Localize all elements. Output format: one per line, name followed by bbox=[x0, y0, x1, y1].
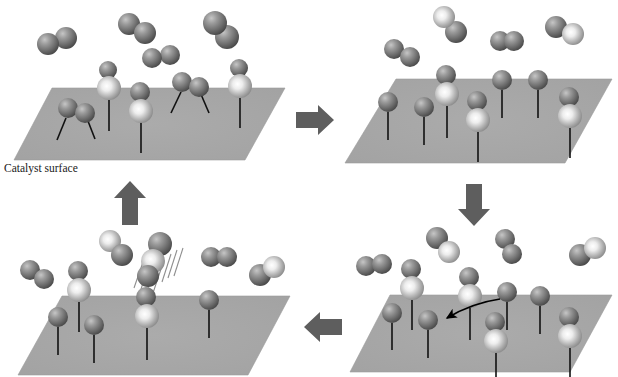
adsorbed-atom bbox=[528, 70, 548, 90]
h2-gas bbox=[545, 16, 584, 45]
h2-gas bbox=[99, 230, 133, 266]
adsorbed-atom bbox=[492, 70, 512, 90]
h2-gas bbox=[142, 45, 180, 68]
h2-gas bbox=[203, 11, 239, 49]
h2-gas bbox=[569, 237, 606, 266]
adsorbed-atom bbox=[382, 303, 402, 323]
h2-gas bbox=[37, 27, 77, 55]
flow-arrow-down-right bbox=[458, 184, 490, 226]
catalyst-surface-plane bbox=[14, 88, 285, 160]
flow-arrow-right-top bbox=[296, 105, 334, 135]
adsorbed-stack bbox=[228, 59, 252, 98]
flow-arrow-left-bottom bbox=[304, 312, 342, 342]
gas-phase-group-3 bbox=[356, 227, 606, 276]
gas-phase-group-4 bbox=[20, 230, 285, 296]
panel-4-desorption bbox=[18, 230, 290, 375]
adsorbed-atom bbox=[48, 307, 68, 327]
adsorbed-stack bbox=[458, 267, 482, 308]
gas-phase-group-1 bbox=[37, 11, 239, 68]
h2-gas bbox=[495, 229, 522, 264]
h2-desorbing bbox=[137, 232, 172, 287]
panel-2-dissociation bbox=[345, 6, 612, 163]
adsorbed-atom bbox=[530, 286, 550, 306]
h2-gas bbox=[490, 31, 524, 51]
h2-gas bbox=[201, 247, 237, 267]
adsorbed-atom bbox=[418, 310, 438, 330]
catalysis-cycle-diagram: Catalyst surface bbox=[0, 0, 618, 377]
h2-gas bbox=[433, 6, 467, 43]
adsorbed-atom bbox=[84, 315, 104, 335]
adsorbed-stack bbox=[135, 287, 159, 328]
adsorbed-atom bbox=[378, 92, 398, 112]
panel-3-migration bbox=[350, 227, 612, 377]
figure-canvas: Catalyst surface bbox=[0, 0, 618, 377]
adsorbed-stack bbox=[435, 65, 459, 106]
panel-1-adsorption: Catalyst surface bbox=[4, 11, 285, 175]
h2-gas bbox=[249, 256, 285, 286]
adsorbed-stack bbox=[67, 261, 91, 302]
scan-artifact-text bbox=[25, 2, 26, 7]
gas-phase-group-2 bbox=[384, 6, 584, 67]
adsorbed-atom bbox=[414, 97, 434, 117]
h2-gas bbox=[20, 260, 54, 289]
h2-gas bbox=[426, 227, 460, 263]
flow-arrow-up-left bbox=[114, 181, 146, 225]
h2-gas bbox=[118, 13, 156, 44]
catalyst-surface-label: Catalyst surface bbox=[4, 162, 78, 175]
adsorbed-stack bbox=[97, 61, 121, 100]
adsorbed-atom bbox=[199, 290, 219, 310]
h2-gas bbox=[384, 39, 420, 67]
adsorbed-stack bbox=[400, 259, 424, 300]
h2-gas bbox=[356, 254, 392, 276]
